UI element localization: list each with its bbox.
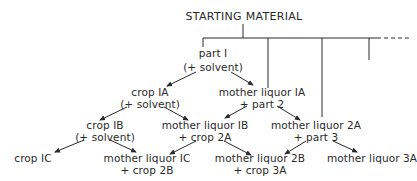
starting-material-label: STARTING MATERIAL	[186, 11, 303, 23]
node-mother-liquor-1c-note: + crop 2B	[120, 164, 173, 176]
node-mother-liquor-1c-name: mother liquor IC	[104, 152, 191, 164]
node-mother-liquor-3a-name: mother liquor 3A	[327, 152, 417, 164]
node-mother-liquor-2a-name: mother liquor 2A	[271, 119, 361, 131]
node-mother-liquor-2a-note: + part 3	[294, 131, 339, 143]
node-crop-1a-name: crop IA	[131, 86, 168, 98]
node-mother-liquor-1a-name: mother liquor IA	[219, 86, 306, 98]
node-mother-liquor-1b-name: mother liquor IB	[162, 119, 249, 131]
node-mother-liquor-2b-note: + crop 3A	[233, 164, 286, 176]
node-crop-1c-name: crop IC	[14, 152, 51, 164]
node-part-1-name: part I	[199, 47, 228, 59]
node-mother-liquor-2b-name: mother liquor 2B	[215, 152, 305, 164]
node-part-1-note: (+ solvent)	[183, 61, 243, 73]
node-crop-1b-name: crop IB	[86, 119, 123, 131]
node-mother-liquor-1a-note: + part 2	[240, 98, 285, 110]
node-crop-1a-note: (+ solvent)	[120, 98, 180, 110]
node-mother-liquor-1b-note: + crop 2A	[178, 131, 231, 143]
node-crop-1b-note: (+ solvent)	[75, 131, 135, 143]
